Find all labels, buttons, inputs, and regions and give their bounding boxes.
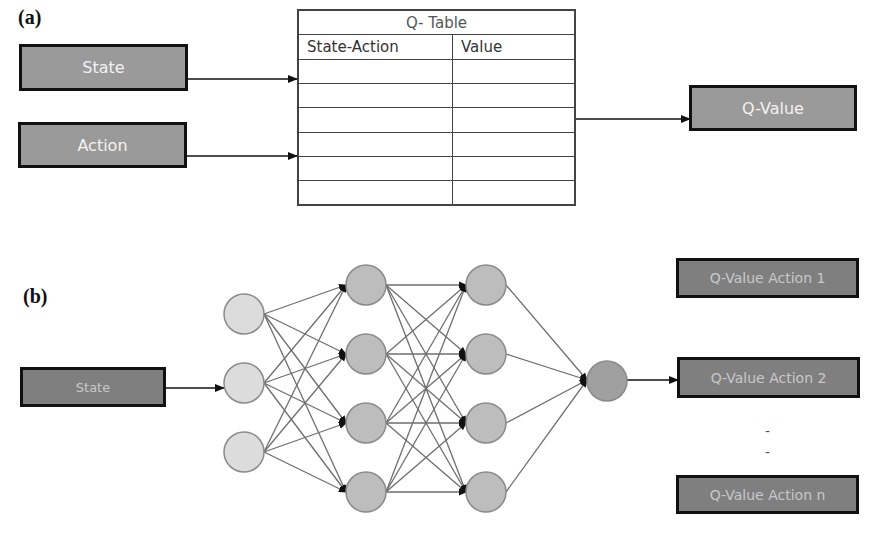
edges-hidden2-output xyxy=(506,285,587,492)
hidden2-neuron xyxy=(466,403,506,443)
hidden1-neuron xyxy=(346,472,386,512)
hidden2-neuron xyxy=(466,472,506,512)
hidden1-neuron xyxy=(346,265,386,305)
output-neuron xyxy=(587,361,627,401)
input-neuron xyxy=(224,432,264,472)
edges-input-hidden1 xyxy=(264,285,346,492)
input-neuron xyxy=(224,294,264,334)
hidden1-neuron xyxy=(346,334,386,374)
diagram-connectors xyxy=(0,0,881,549)
hidden1-neuron xyxy=(346,403,386,443)
input-neuron xyxy=(224,363,264,403)
hidden2-neuron xyxy=(466,265,506,305)
edges-hidden1-hidden2 xyxy=(386,285,466,492)
hidden2-neuron xyxy=(466,334,506,374)
